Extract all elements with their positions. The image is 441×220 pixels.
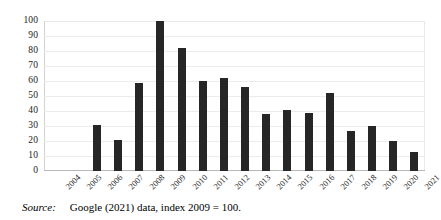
- bar: [389, 141, 397, 171]
- y-tick-label: 30: [28, 121, 38, 131]
- y-tick-label: 100: [23, 16, 38, 26]
- bar: [283, 110, 291, 172]
- x-tick-label: 2008: [148, 173, 166, 191]
- y-tick-label: 0: [33, 166, 38, 176]
- x-tick-label: 2019: [381, 173, 399, 191]
- y-tick-label: 40: [28, 106, 38, 116]
- bar-slot: [319, 21, 340, 171]
- x-tick-label: 2005: [85, 173, 103, 191]
- bar: [114, 140, 122, 172]
- bar-slot: [129, 21, 150, 171]
- bar-slot: [362, 21, 383, 171]
- bar: [241, 87, 249, 171]
- bar: [262, 114, 270, 171]
- bar: [368, 126, 376, 171]
- x-tick-label: 2014: [275, 173, 293, 191]
- bar: [410, 152, 418, 172]
- y-tick-label: 50: [28, 91, 38, 101]
- bar-slot: [256, 21, 277, 171]
- x-tick-label: 2016: [318, 173, 336, 191]
- x-tick-label: 2006: [106, 173, 124, 191]
- bar-slot: [235, 21, 256, 171]
- bar: [199, 81, 207, 171]
- bar: [220, 78, 228, 171]
- y-tick-label: 20: [28, 136, 38, 146]
- figure-caption: Source:Google (2021) data, index 2009 = …: [22, 200, 422, 216]
- x-tick-label: 2009: [169, 173, 187, 191]
- bar-slot: [383, 21, 404, 171]
- y-tick-label: 90: [28, 31, 38, 41]
- x-tick-label: 2020: [402, 173, 420, 191]
- x-tick-label: 2010: [191, 173, 209, 191]
- figure-bar-chart: 1009080706050403020100 20042005200620072…: [0, 0, 441, 220]
- x-tick-label: 2013: [254, 173, 272, 191]
- x-tick-label: 2018: [360, 173, 378, 191]
- x-tick-label: 2015: [296, 173, 314, 191]
- x-tick-label: 2021: [423, 173, 441, 191]
- bar-slot: [277, 21, 298, 171]
- bar-slot: [150, 21, 171, 171]
- bar: [178, 48, 186, 171]
- bar-slot: [44, 21, 65, 171]
- x-tick-label: 2012: [233, 173, 251, 191]
- y-tick-label: 60: [28, 76, 38, 86]
- x-tick-label: 2004: [64, 173, 82, 191]
- bar-slot: [171, 21, 192, 171]
- y-axis: 1009080706050403020100: [0, 0, 44, 180]
- plot-area: [44, 21, 425, 171]
- bar-slot: [192, 21, 213, 171]
- y-tick-label: 80: [28, 46, 38, 56]
- x-axis: 2004200520062007200820092010201120122013…: [44, 172, 425, 202]
- y-tick-label: 10: [28, 151, 38, 161]
- x-tick-label: 2017: [339, 173, 357, 191]
- bar-slot: [65, 21, 86, 171]
- x-tick-label: 2011: [212, 173, 230, 191]
- bar-slot: [86, 21, 107, 171]
- bar: [305, 113, 313, 172]
- bar: [93, 125, 101, 172]
- x-tick-label: 2007: [127, 173, 145, 191]
- y-tick-label: 70: [28, 61, 38, 71]
- bar-slot: [108, 21, 129, 171]
- caption-source-text: Google (2021) data, index 2009 = 100.: [70, 201, 241, 213]
- bar: [135, 83, 143, 172]
- bar: [347, 131, 355, 172]
- caption-source-label: Source:: [22, 201, 56, 213]
- bar-slot: [340, 21, 361, 171]
- bar: [326, 93, 334, 171]
- bar-slot: [404, 21, 425, 171]
- bar: [156, 21, 164, 171]
- bar-slot: [298, 21, 319, 171]
- bar-slot: [213, 21, 234, 171]
